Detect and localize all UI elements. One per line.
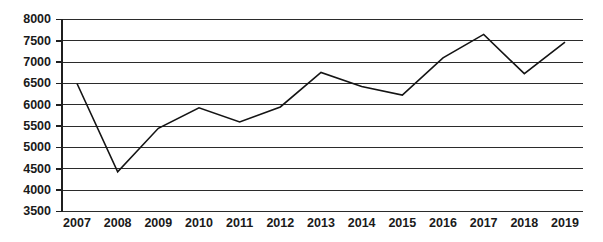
y-tick-label: 4000: [23, 183, 51, 197]
x-tick-label: 2014: [348, 216, 376, 230]
y-tick-label: 5000: [23, 140, 51, 154]
y-tick-label: 5500: [23, 119, 51, 133]
x-tick-label: 2015: [388, 216, 416, 230]
x-tick-label: 2011: [226, 216, 253, 230]
x-tick-label: 2019: [551, 216, 579, 230]
y-tick-label: 7000: [23, 55, 51, 69]
x-tick-label: 2017: [470, 216, 498, 230]
y-tick-label: 3500: [23, 204, 51, 218]
y-tick-label: 6000: [23, 98, 51, 112]
chart-background: [0, 0, 603, 242]
y-tick-label: 7500: [23, 34, 51, 48]
line-chart: 3500400045005000550060006500700075008000…: [0, 0, 603, 242]
y-tick-label: 6500: [23, 76, 51, 90]
x-tick-label: 2018: [510, 216, 538, 230]
x-tick-label: 2012: [266, 216, 294, 230]
x-tick-label: 2008: [104, 216, 132, 230]
x-tick-label: 2016: [429, 216, 457, 230]
x-tick-label: 2013: [307, 216, 335, 230]
x-tick-label: 2009: [144, 216, 172, 230]
y-tick-label: 8000: [23, 12, 51, 26]
x-tick-label: 2007: [63, 216, 91, 230]
y-tick-label: 4500: [23, 162, 51, 176]
x-tick-label: 2010: [185, 216, 213, 230]
chart-container: 3500400045005000550060006500700075008000…: [0, 0, 603, 242]
